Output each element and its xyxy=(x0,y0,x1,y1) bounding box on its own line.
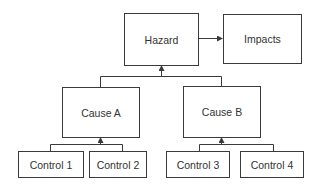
cause-a-node: Cause A xyxy=(62,87,140,138)
hazard-node: Hazard xyxy=(124,13,199,66)
impacts-node: Impacts xyxy=(223,14,302,64)
control-4-node: Control 4 xyxy=(240,151,304,178)
cause-b-node: Cause B xyxy=(183,86,261,138)
control-2-node: Control 2 xyxy=(89,151,147,178)
control-1-node: Control 1 xyxy=(18,151,84,178)
control-3-node: Control 3 xyxy=(166,151,230,178)
